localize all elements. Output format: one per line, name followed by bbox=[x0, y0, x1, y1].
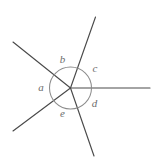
ray-lower-right bbox=[71, 88, 95, 156]
ray-group bbox=[13, 17, 150, 156]
ray-upper-right bbox=[71, 17, 96, 88]
angle-diagram-container: a b c d e bbox=[0, 0, 153, 164]
angle-label-b: b bbox=[60, 53, 66, 65]
angle-label-d: d bbox=[92, 97, 98, 109]
angle-label-e: e bbox=[60, 107, 65, 119]
angle-diagram-svg: a b c d e bbox=[0, 0, 153, 164]
angle-label-c: c bbox=[93, 62, 98, 74]
angle-label-a: a bbox=[38, 81, 44, 93]
